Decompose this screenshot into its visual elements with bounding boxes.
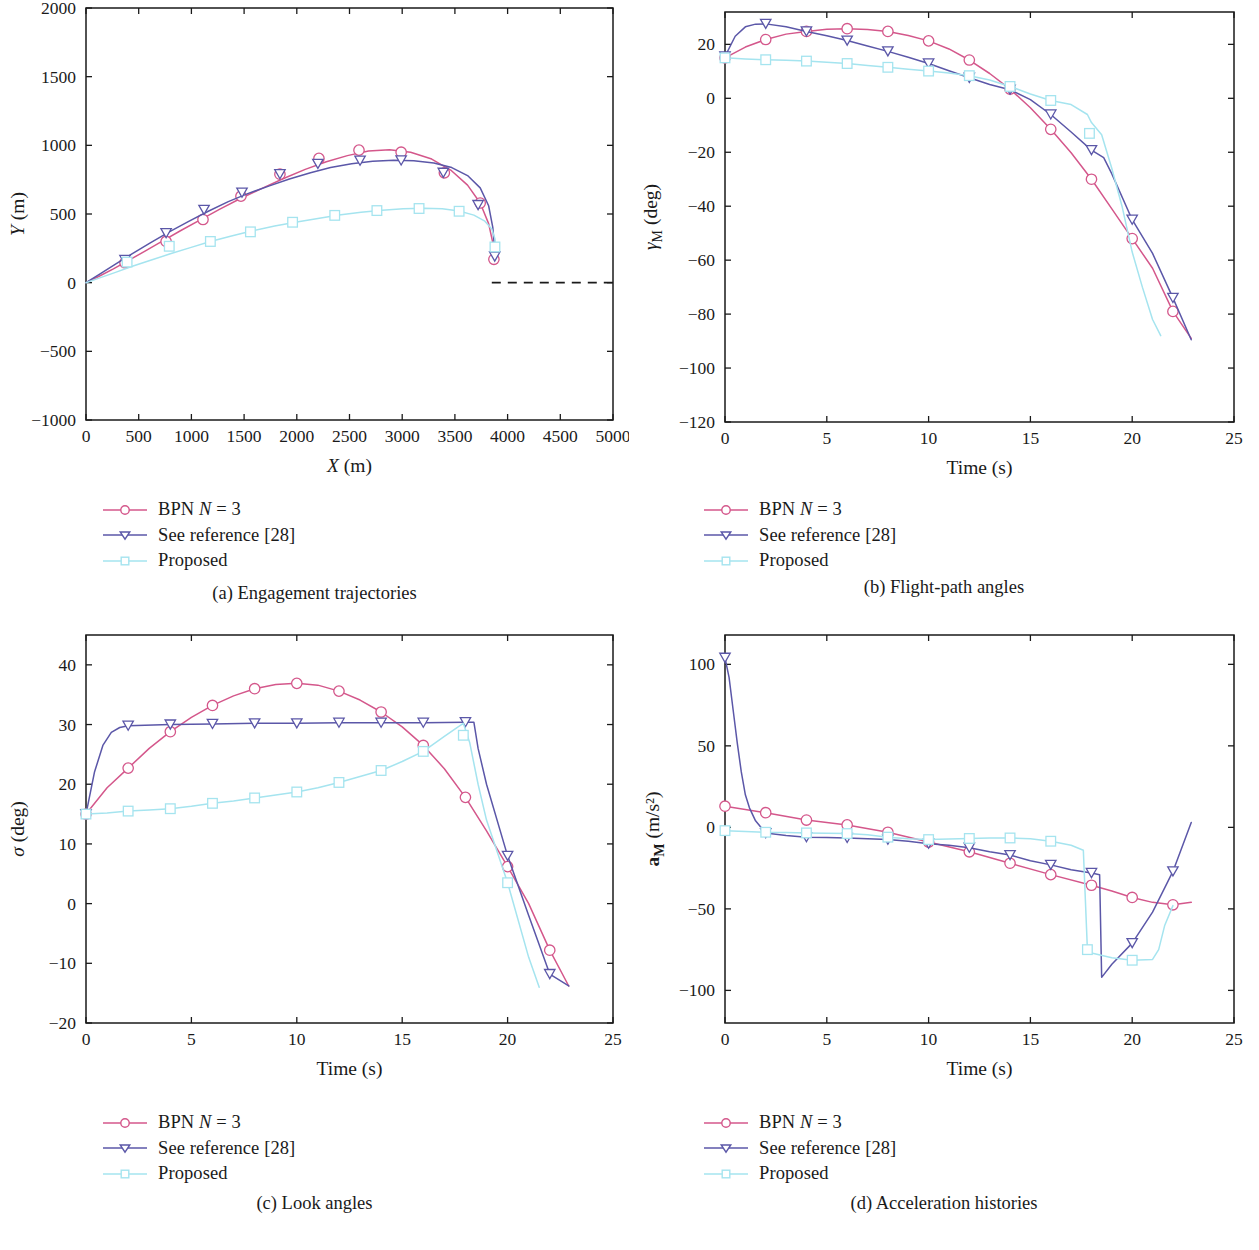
y-tick-label: −100 bbox=[679, 358, 715, 378]
y-tick-label: −60 bbox=[688, 250, 716, 270]
legend-label-proposed: Proposed bbox=[158, 548, 228, 574]
y-tick-label: −20 bbox=[49, 1013, 77, 1033]
y-tick-label: −120 bbox=[679, 412, 715, 432]
legend-label-reference: See reference [28] bbox=[158, 523, 295, 549]
x-tick-label: 3000 bbox=[385, 426, 420, 446]
series-circle bbox=[720, 801, 1191, 910]
series-triangle-down bbox=[720, 19, 1191, 339]
caption-a: (a) Engagement trajectories bbox=[0, 583, 629, 604]
legend-label-bpn: BPN N = 3 bbox=[759, 497, 842, 523]
y-tick-label: −100 bbox=[679, 980, 715, 1000]
x-tick-label: 3500 bbox=[437, 426, 472, 446]
x-axis-label: Time (s) bbox=[947, 457, 1013, 479]
legend-key-proposed-icon bbox=[704, 553, 748, 569]
caption-d: (d) Acceleration histories bbox=[629, 1193, 1259, 1214]
y-axis-label: Y (m) bbox=[7, 192, 29, 236]
x-tick-label: 0 bbox=[82, 1029, 91, 1049]
series-circle bbox=[86, 145, 499, 283]
legend-item-proposed: Proposed bbox=[704, 1161, 896, 1187]
y-tick-label: 500 bbox=[50, 204, 77, 224]
x-tick-label: 4000 bbox=[490, 426, 525, 446]
y-tick-label: 30 bbox=[59, 715, 77, 735]
legend-key-bpn-icon bbox=[704, 1115, 748, 1131]
x-tick-label: 1500 bbox=[227, 426, 262, 446]
legend-label-bpn: BPN N = 3 bbox=[158, 1110, 241, 1136]
acceleration-histories-chart: 0510152025−100−50050100Time (s)aM (m/s²) bbox=[629, 625, 1259, 1100]
series-square bbox=[86, 204, 500, 283]
y-tick-label: 0 bbox=[706, 88, 715, 108]
y-tick-label: 100 bbox=[689, 654, 716, 674]
legend-item-proposed: Proposed bbox=[103, 1161, 295, 1187]
legend-item-bpn: BPN N = 3 bbox=[103, 497, 295, 523]
legend-c: BPN N = 3 See reference [28] Proposed bbox=[103, 1110, 295, 1187]
x-tick-label: 5 bbox=[822, 428, 831, 448]
x-tick-label: 10 bbox=[920, 1029, 938, 1049]
x-tick-label: 25 bbox=[1225, 428, 1243, 448]
y-axis-label: aM (m/s²) bbox=[642, 792, 667, 867]
legend-key-bpn-icon bbox=[704, 502, 748, 518]
x-tick-label: 25 bbox=[1225, 1029, 1243, 1049]
legend-item-proposed: Proposed bbox=[704, 548, 896, 574]
series-circle bbox=[720, 24, 1191, 339]
x-tick-label: 10 bbox=[288, 1029, 306, 1049]
y-tick-label: 0 bbox=[67, 894, 76, 914]
y-tick-label: 20 bbox=[698, 34, 716, 54]
subplot-a: 0500100015002000250030003500400045005000… bbox=[0, 0, 629, 625]
legend-label-bpn: BPN N = 3 bbox=[158, 497, 241, 523]
caption-c: (c) Look angles bbox=[0, 1193, 629, 1214]
x-tick-label: 15 bbox=[1022, 428, 1040, 448]
series-square bbox=[720, 53, 1161, 336]
x-tick-label: 5 bbox=[187, 1029, 196, 1049]
legend-key-bpn-icon bbox=[103, 502, 147, 518]
x-tick-label: 15 bbox=[393, 1029, 411, 1049]
legend-label-proposed: Proposed bbox=[759, 548, 829, 574]
y-tick-label: 1000 bbox=[41, 135, 76, 155]
y-tick-label: −20 bbox=[688, 142, 716, 162]
legend-item-proposed: Proposed bbox=[103, 548, 295, 574]
plot-frame bbox=[725, 12, 1234, 422]
subplot-b: 0510152025−120−100−80−60−40−20020Time (s… bbox=[629, 0, 1259, 625]
legend-key-proposed-icon bbox=[103, 1166, 147, 1182]
y-tick-label: −500 bbox=[40, 341, 76, 361]
legend-item-reference: See reference [28] bbox=[704, 1136, 896, 1162]
x-tick-label: 0 bbox=[721, 1029, 730, 1049]
legend-item-bpn: BPN N = 3 bbox=[704, 1110, 896, 1136]
y-tick-label: −1000 bbox=[31, 410, 76, 430]
series-triangle-down bbox=[81, 718, 569, 986]
y-tick-label: 2000 bbox=[41, 0, 76, 18]
y-tick-label: 1500 bbox=[41, 67, 76, 87]
legend-b: BPN N = 3 See reference [28] Proposed bbox=[704, 497, 896, 574]
x-tick-label: 0 bbox=[721, 428, 730, 448]
x-tick-label: 1000 bbox=[174, 426, 209, 446]
engagement-trajectories-chart: 0500100015002000250030003500400045005000… bbox=[0, 0, 629, 500]
y-axis-label: γM (deg) bbox=[640, 184, 665, 250]
x-tick-label: 20 bbox=[1123, 1029, 1141, 1049]
x-tick-label: 2000 bbox=[279, 426, 314, 446]
look-angles-chart: 0510152025−20−10010203040Time (s)σ (deg) bbox=[0, 625, 629, 1100]
legend-item-bpn: BPN N = 3 bbox=[103, 1110, 295, 1136]
x-tick-label: 5 bbox=[822, 1029, 831, 1049]
y-tick-label: 10 bbox=[59, 834, 77, 854]
y-tick-label: 0 bbox=[706, 817, 715, 837]
x-tick-label: 0 bbox=[82, 426, 91, 446]
legend-label-proposed: Proposed bbox=[158, 1161, 228, 1187]
x-tick-label: 5000 bbox=[596, 426, 630, 446]
y-tick-label: −80 bbox=[688, 304, 716, 324]
x-tick-label: 15 bbox=[1022, 1029, 1040, 1049]
flight-path-angles-chart: 0510152025−120−100−80−60−40−20020Time (s… bbox=[629, 0, 1259, 500]
legend-d: BPN N = 3 See reference [28] Proposed bbox=[704, 1110, 896, 1187]
legend-key-reference-icon bbox=[103, 527, 147, 543]
legend-label-bpn: BPN N = 3 bbox=[759, 1110, 842, 1136]
x-tick-label: 4500 bbox=[543, 426, 578, 446]
legend-item-reference: See reference [28] bbox=[103, 523, 295, 549]
y-axis-label: σ (deg) bbox=[7, 801, 29, 857]
x-tick-label: 20 bbox=[1123, 428, 1141, 448]
subplot-c: 0510152025−20−10010203040Time (s)σ (deg)… bbox=[0, 625, 629, 1250]
legend-label-reference: See reference [28] bbox=[759, 523, 896, 549]
subplot-d: 0510152025−100−50050100Time (s)aM (m/s²)… bbox=[629, 625, 1259, 1250]
x-tick-label: 25 bbox=[604, 1029, 622, 1049]
y-tick-label: −50 bbox=[688, 899, 716, 919]
legend-a: BPN N = 3 See reference [28] Proposed bbox=[103, 497, 295, 574]
legend-key-proposed-icon bbox=[704, 1166, 748, 1182]
legend-label-reference: See reference [28] bbox=[759, 1136, 896, 1162]
